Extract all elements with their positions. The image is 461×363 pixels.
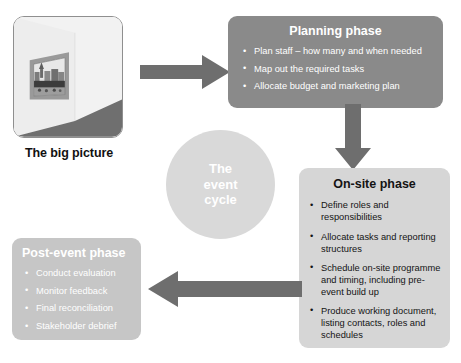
circle-line-2: event <box>204 177 238 193</box>
bullet-item: Map out the required tasks <box>242 63 435 76</box>
big-picture-label: The big picture <box>11 146 127 160</box>
phase-title-onsite: On-site phase <box>299 177 450 191</box>
phase-box-postevent[interactable]: Post-event phase Conduct evaluation Moni… <box>12 238 141 340</box>
phase-title-planning: Planning phase <box>228 24 443 38</box>
bullet-item: Stakeholder debrief <box>24 320 135 333</box>
phase-bullets-planning: Plan staff – how many and when needed Ma… <box>242 45 435 93</box>
bullet-item: Schedule on-site programme and timing, i… <box>309 262 443 298</box>
bullet-item: Allocate budget and marketing plan <box>242 80 435 93</box>
event-cycle-circle: The event cycle <box>166 130 275 239</box>
bullet-item: Plan staff – how many and when needed <box>242 45 435 58</box>
bullet-item: Allocate tasks and reporting structures <box>309 231 443 255</box>
phase-bullets-postevent: Conduct evaluation Monitor feedback Fina… <box>24 267 135 332</box>
phase-bullets-onsite: Define roles and responsibilities Alloca… <box>309 199 443 341</box>
arrow-onsite-to-postevent <box>146 268 302 310</box>
event-cycle-diagram: The big picture Planning phase Plan staf… <box>0 0 461 363</box>
phase-title-postevent: Post-event phase <box>12 246 141 260</box>
arrow-planning-to-onsite <box>333 104 373 172</box>
bullet-item: Produce working document, listing contac… <box>309 305 443 341</box>
big-picture-card <box>13 16 123 138</box>
bullet-item: Define roles and responsibilities <box>309 199 443 223</box>
room-illustration <box>14 17 122 137</box>
circle-line-3: cycle <box>204 192 237 208</box>
bullet-item: Conduct evaluation <box>24 267 135 280</box>
circle-line-1: The <box>209 161 232 177</box>
arrow-bigpicture-to-planning <box>140 52 232 92</box>
phase-box-onsite[interactable]: On-site phase Define roles and responsib… <box>299 168 450 348</box>
bullet-item: Monitor feedback <box>24 285 135 298</box>
phase-box-planning[interactable]: Planning phase Plan staff – how many and… <box>228 16 443 108</box>
bullet-item: Final reconciliation <box>24 302 135 315</box>
